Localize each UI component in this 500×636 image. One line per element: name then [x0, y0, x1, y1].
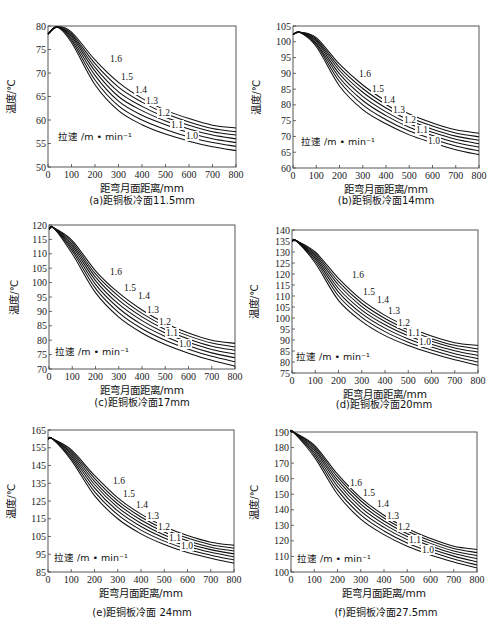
curve-label-1.2: 1.2 [398, 522, 410, 532]
x-tick-label: 300 [111, 371, 126, 382]
y-tick-label: 130 [275, 247, 290, 258]
x-tick-label: 700 [446, 574, 461, 585]
x-tick-label: 400 [378, 375, 393, 386]
x-tick-label: 500 [158, 371, 173, 382]
y-tick-label: 80 [37, 335, 47, 346]
y-tick-label: 140 [274, 504, 289, 515]
x-tick-label: 500 [402, 170, 417, 181]
x-tick-label: 100 [307, 574, 322, 585]
curve-label-1.2: 1.2 [398, 318, 410, 328]
y-tick-label: 120 [32, 220, 47, 231]
x-tick-label: 0 [46, 169, 51, 180]
curve-label-1.3: 1.3 [147, 305, 159, 315]
x-axis-label: 距弯月面距离/mm [100, 182, 184, 194]
curve-label-1.4: 1.4 [383, 95, 395, 105]
y-tick-label: 170 [274, 458, 289, 469]
x-axis-label: 距弯月面距离/mm [344, 183, 428, 195]
y-tick-label: 90 [281, 68, 291, 79]
curve-label-1.5: 1.5 [121, 72, 133, 82]
x-axis-label: 距弯月面距离/mm [342, 587, 426, 599]
curve-label-1.1: 1.1 [171, 120, 183, 130]
curve-label-1.6: 1.6 [113, 476, 125, 486]
y-tick-label: 115 [32, 234, 47, 245]
y-tick-label: 65 [36, 91, 46, 102]
x-tick-label: 300 [354, 375, 369, 386]
x-tick-label: 0 [289, 574, 294, 585]
panel-caption: (c)距铜板冷面17mm [94, 396, 190, 408]
x-tick-label: 0 [47, 371, 52, 382]
curve-label-1.1: 1.1 [409, 535, 421, 545]
x-tick-label: 300 [111, 169, 126, 180]
y-tick-label: 110 [32, 248, 47, 259]
y-tick-label: 70 [36, 68, 46, 79]
curve-label-1.5: 1.5 [363, 488, 375, 498]
y-tick-label: 100 [274, 567, 289, 578]
y-tick-label: 85 [37, 320, 47, 331]
y-tick-label: 130 [274, 520, 289, 531]
y-tick-label: 120 [274, 535, 289, 546]
y-tick-label: 85 [280, 346, 290, 357]
x-tick-label: 200 [332, 170, 347, 181]
y-tick-label: 105 [32, 263, 47, 274]
curve-label-1.3: 1.3 [147, 511, 159, 521]
curve-label-1.1: 1.1 [166, 328, 178, 338]
x-tick-label: 700 [205, 169, 220, 180]
curve-label-1.2: 1.2 [158, 108, 170, 118]
y-tick-label: 90 [37, 306, 47, 317]
panel-caption: (a)距铜板冷面11.5mm [89, 194, 195, 206]
curve-speed-1.6 [292, 240, 478, 345]
y-tick-label: 70 [281, 131, 291, 142]
x-tick-label: 300 [110, 574, 125, 585]
curve-label-1.0: 1.0 [419, 337, 431, 347]
chart-panel-e: 0100200300400500600700800859510511512513… [5, 425, 242, 619]
chart-panel-a: 0100200300400500600700800505560657075801… [5, 21, 244, 207]
curve-label-1.6: 1.6 [352, 270, 364, 280]
curve-label-1.2: 1.2 [158, 522, 170, 532]
y-tick-label: 70 [37, 364, 47, 375]
y-tick-label: 190 [274, 427, 289, 438]
x-tick-label: 500 [158, 169, 173, 180]
curve-label-1.0: 1.0 [181, 541, 193, 551]
y-axis-label: 温度/℃ [8, 279, 20, 314]
x-tick-label: 400 [134, 574, 149, 585]
curve-speed-1.2 [293, 32, 479, 147]
x-tick-label: 300 [355, 170, 370, 181]
x-tick-label: 200 [88, 371, 103, 382]
y-tick-label: 165 [31, 425, 46, 436]
x-tick-label: 500 [157, 574, 172, 585]
y-axis-label: 温度/℃ [248, 284, 260, 319]
chart-panel-f: 0100200300400500600700800100110120130140… [248, 427, 485, 619]
x-tick-label: 0 [291, 170, 296, 181]
y-axis-label: 温度/℃ [5, 79, 17, 114]
legend-label: 拉速 /m • min⁻¹ [297, 553, 371, 564]
curve-label-1.3: 1.3 [393, 105, 405, 115]
y-tick-label: 60 [36, 115, 46, 126]
y-tick-label: 95 [37, 292, 47, 303]
curve-label-1.3: 1.3 [388, 306, 400, 316]
y-tick-label: 85 [36, 567, 46, 578]
x-tick-label: 100 [64, 169, 79, 180]
curve-label-1.4: 1.4 [136, 500, 148, 510]
curve-label-1.4: 1.4 [377, 499, 389, 509]
curve-label-1.2: 1.2 [159, 317, 171, 327]
legend-label: 拉速 /m • min⁻¹ [58, 131, 132, 142]
x-tick-label: 200 [331, 375, 346, 386]
x-tick-label: 100 [308, 375, 323, 386]
y-tick-label: 120 [275, 269, 290, 280]
x-tick-label: 500 [400, 574, 415, 585]
x-tick-label: 800 [229, 169, 244, 180]
x-tick-label: 800 [472, 170, 487, 181]
y-axis-label: 温度/℃ [250, 79, 262, 114]
y-tick-label: 75 [37, 349, 47, 360]
y-tick-label: 135 [31, 478, 46, 489]
curve-label-1.5: 1.5 [363, 287, 375, 297]
y-tick-label: 55 [36, 138, 46, 149]
x-tick-label: 200 [88, 169, 103, 180]
y-tick-label: 50 [36, 162, 46, 173]
y-tick-label: 145 [31, 460, 46, 471]
y-tick-label: 100 [276, 36, 291, 47]
y-tick-label: 115 [275, 280, 290, 291]
x-tick-label: 800 [471, 375, 486, 386]
y-tick-label: 75 [281, 115, 291, 126]
chart-panel-b: 0100200300400500600700800606570758085909… [250, 21, 487, 207]
